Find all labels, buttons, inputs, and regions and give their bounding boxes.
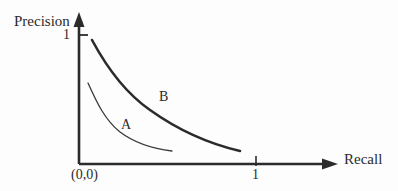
- figure-canvas: Precision Recall 1 1 (0,0) A B: [0, 0, 398, 191]
- x-axis-arrowhead: [322, 159, 338, 170]
- y-axis-tick-label-1: 1: [63, 28, 70, 42]
- y-axis-arrowhead: [74, 12, 85, 27]
- x-axis-title: Recall: [344, 152, 382, 167]
- curve-a-label: A: [121, 118, 131, 132]
- y-axis-title: Precision: [14, 14, 70, 29]
- curve-b-label: B: [159, 90, 168, 104]
- origin-label: (0,0): [71, 168, 98, 182]
- x-axis-tick-label-1: 1: [252, 168, 259, 182]
